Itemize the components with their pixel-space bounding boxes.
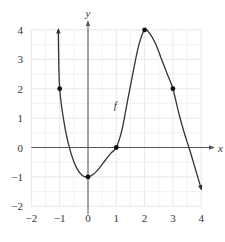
curve-f-path <box>58 29 201 188</box>
data-point <box>142 28 147 33</box>
function-graph: −2−10123443210−1−2 fxy <box>0 0 225 242</box>
y-tick-label: 0 <box>18 142 24 154</box>
x-tick-label: 4 <box>198 212 204 224</box>
curve-end-arrow-icon <box>198 185 202 191</box>
y-tick-label: 1 <box>18 112 24 124</box>
curve-label-f: f <box>114 99 119 111</box>
x-tick-label: −2 <box>26 212 38 224</box>
y-tick-label: −2 <box>11 200 23 212</box>
x-axis-arrow-icon <box>209 145 215 149</box>
x-tick-label: 2 <box>142 212 148 224</box>
y-axis-arrow-icon <box>86 20 90 26</box>
y-tick-label: 2 <box>18 83 24 95</box>
y-tick-label: 4 <box>18 24 24 36</box>
tick-labels: −2−10123443210−1−2 <box>11 24 204 224</box>
y-tick-label: 3 <box>18 53 24 65</box>
curve-f <box>56 28 202 191</box>
data-point <box>86 175 91 180</box>
data-point <box>114 145 119 150</box>
axis-labels: fxy <box>85 7 223 154</box>
x-axis-label: x <box>217 142 223 154</box>
grid <box>31 30 201 206</box>
data-point <box>57 86 62 91</box>
x-tick-label: 0 <box>85 212 91 224</box>
x-tick-label: 3 <box>170 212 176 224</box>
x-tick-label: −1 <box>54 212 66 224</box>
y-axis-label: y <box>85 7 91 19</box>
y-tick-label: −1 <box>11 171 23 183</box>
x-tick-label: 1 <box>114 212 120 224</box>
data-point <box>171 86 176 91</box>
